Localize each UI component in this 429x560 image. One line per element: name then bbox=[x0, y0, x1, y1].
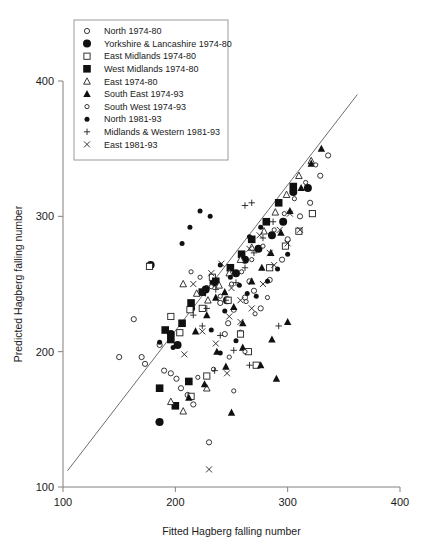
data-point bbox=[205, 297, 212, 303]
data-point bbox=[318, 173, 323, 178]
x-tick-label: 300 bbox=[278, 496, 296, 508]
data-point bbox=[237, 297, 243, 303]
legend-item-label: South East 1974-93 bbox=[104, 89, 184, 99]
data-point bbox=[196, 375, 200, 379]
y-axis-title: Predicted Hagberg falling number bbox=[12, 205, 24, 362]
data-point bbox=[246, 362, 252, 368]
legend-item-label: South West 1974-93 bbox=[104, 102, 186, 112]
data-point bbox=[289, 183, 297, 191]
data-point bbox=[309, 211, 315, 217]
data-point bbox=[222, 363, 229, 370]
data-point bbox=[233, 338, 238, 343]
data-point bbox=[209, 328, 214, 333]
data-point bbox=[279, 218, 287, 226]
legend-item: Midlands & Western 1981-93 bbox=[84, 127, 220, 137]
x-axis-title: Fitted Hagberg falling number bbox=[162, 525, 301, 537]
data-point bbox=[209, 285, 213, 289]
data-point bbox=[240, 270, 244, 274]
data-point bbox=[265, 295, 269, 299]
data-point bbox=[279, 257, 284, 262]
data-point bbox=[245, 291, 250, 296]
data-point bbox=[226, 321, 231, 326]
data-point bbox=[292, 197, 296, 201]
legend-item-label: East Midlands 1974-80 bbox=[104, 51, 196, 61]
legend-item-label: East 1974-80 bbox=[104, 77, 158, 87]
data-point bbox=[156, 384, 164, 392]
legend-item-label: Midlands & Western 1981-93 bbox=[104, 127, 220, 137]
data-point bbox=[243, 350, 247, 354]
marker-filled-square bbox=[83, 65, 91, 73]
data-point bbox=[285, 252, 290, 257]
data-point bbox=[187, 307, 193, 313]
data-point bbox=[230, 303, 237, 310]
data-point bbox=[326, 153, 331, 158]
series-west-midlands-1974-80 bbox=[156, 183, 297, 410]
data-point bbox=[297, 214, 302, 219]
data-point bbox=[180, 408, 187, 414]
data-point bbox=[192, 327, 199, 334]
data-point bbox=[189, 270, 193, 274]
data-point bbox=[228, 409, 235, 416]
y-tick-label: 400 bbox=[36, 75, 54, 87]
data-point bbox=[272, 209, 279, 215]
data-point bbox=[185, 378, 193, 386]
data-point bbox=[178, 319, 186, 327]
legend-item-label: Yorkshire & Lancashire 1974-80 bbox=[104, 39, 232, 49]
data-point bbox=[268, 335, 275, 342]
y-tick-label: 100 bbox=[36, 481, 54, 493]
data-point bbox=[282, 212, 286, 216]
data-point bbox=[167, 336, 175, 344]
data-point bbox=[237, 331, 243, 337]
x-tick-label: 400 bbox=[391, 496, 409, 508]
data-point bbox=[231, 347, 237, 353]
marker-open-circle-small bbox=[84, 28, 89, 33]
data-point bbox=[244, 299, 248, 303]
data-point bbox=[228, 275, 233, 280]
data-point bbox=[168, 398, 175, 404]
data-point bbox=[304, 184, 312, 192]
data-point bbox=[199, 323, 205, 329]
legend-item-label: North 1974-80 bbox=[104, 26, 162, 36]
data-point bbox=[168, 371, 173, 376]
data-point bbox=[117, 354, 122, 359]
y-tick-label: 200 bbox=[36, 346, 54, 358]
series-south-west-1974-93 bbox=[189, 163, 318, 393]
data-point bbox=[168, 313, 174, 319]
legend-item: Yorkshire & Lancashire 1974-80 bbox=[83, 39, 232, 49]
data-point bbox=[284, 318, 291, 325]
data-point bbox=[250, 258, 254, 262]
data-point bbox=[171, 345, 176, 350]
data-point bbox=[131, 317, 136, 322]
data-point bbox=[318, 145, 325, 152]
scatter-plot-figure: 100200300400100200300400Fitted Hagberg f… bbox=[0, 0, 429, 560]
data-point bbox=[249, 200, 255, 206]
x-tick-label: 100 bbox=[54, 496, 72, 508]
data-point bbox=[162, 368, 167, 373]
data-point bbox=[190, 281, 196, 287]
data-point bbox=[199, 328, 205, 334]
data-point bbox=[258, 225, 263, 230]
data-point bbox=[258, 306, 263, 311]
data-point bbox=[227, 355, 231, 359]
data-point bbox=[218, 294, 222, 298]
data-point bbox=[263, 218, 271, 226]
legend-item-label: North 1981-93 bbox=[104, 114, 162, 124]
data-point bbox=[198, 275, 202, 279]
data-point bbox=[201, 380, 208, 387]
data-point bbox=[213, 341, 219, 347]
data-point bbox=[178, 386, 183, 391]
data-point bbox=[272, 228, 276, 232]
marker-open-circle-tiny bbox=[85, 105, 89, 109]
data-point bbox=[275, 323, 281, 329]
data-point bbox=[206, 440, 211, 445]
data-point bbox=[222, 331, 227, 336]
data-point bbox=[297, 184, 304, 191]
data-point bbox=[180, 280, 187, 286]
marker-filled-circle-large bbox=[83, 40, 91, 48]
data-point bbox=[187, 225, 192, 230]
data-point bbox=[251, 288, 256, 293]
data-point bbox=[177, 330, 183, 336]
data-point bbox=[308, 200, 313, 205]
data-point bbox=[232, 389, 236, 393]
data-point bbox=[161, 326, 169, 334]
